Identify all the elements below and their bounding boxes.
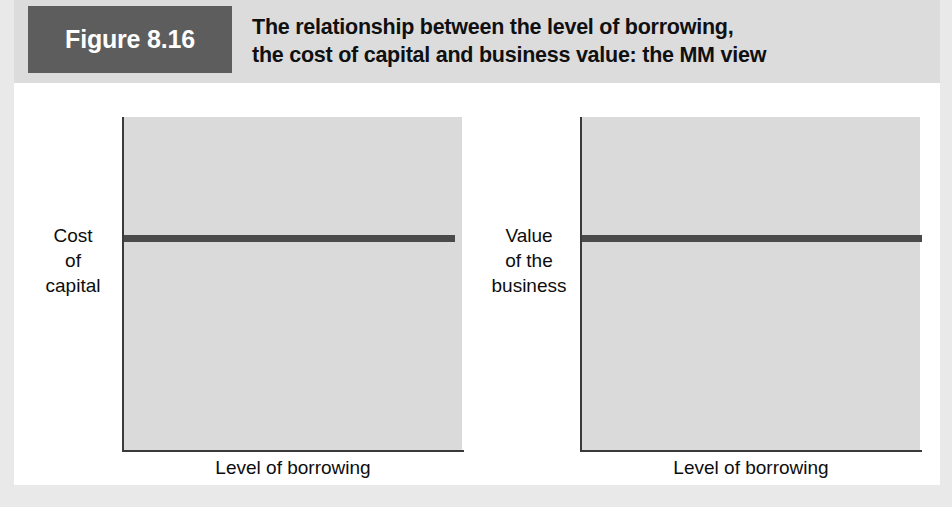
figure-title-line-2: the cost of capital and business value: …	[252, 41, 942, 69]
chart-cost-of-capital: Cost of capital Level of borrowing	[30, 83, 478, 485]
y-axis-label-line-1: Cost	[30, 223, 116, 248]
y-axis-line-cost-of-capital	[122, 117, 124, 451]
x-axis-label-value-of-business: Level of borrowing	[580, 457, 922, 479]
page-margin-right	[940, 0, 952, 507]
x-axis-line-value-of-business	[580, 450, 922, 452]
figure-body: Cost of capital Level of borrowing Value…	[14, 83, 940, 485]
y-axis-label-cost-of-capital: Cost of capital	[30, 223, 116, 298]
y-axis-label-value-of-business: Value of the business	[484, 223, 574, 298]
y-axis-line-value-of-business	[580, 117, 582, 451]
figure-page: Figure 8.16 The relationship between the…	[0, 0, 952, 507]
page-margin-bottom	[0, 485, 952, 507]
y-axis-label-line-2: of	[30, 248, 116, 273]
x-axis-label-cost-of-capital: Level of borrowing	[122, 457, 464, 479]
y-axis-label-line-3: business	[484, 273, 574, 298]
y-axis-label-line-1: Value	[484, 223, 574, 248]
plot-area-cost-of-capital	[124, 117, 462, 450]
chart-value-of-business: Value of the business Level of borrowing	[490, 83, 930, 485]
y-axis-label-line-2: of the	[484, 248, 574, 273]
plot-area-value-of-business	[582, 117, 920, 450]
series-line-value-of-business	[582, 235, 922, 242]
figure-number-badge: Figure 8.16	[28, 6, 232, 73]
page-margin-left	[0, 0, 14, 507]
x-axis-line-cost-of-capital	[122, 450, 464, 452]
figure-header-banner: Figure 8.16 The relationship between the…	[14, 0, 940, 83]
y-axis-label-line-3: capital	[30, 273, 116, 298]
figure-title-line-1: The relationship between the level of bo…	[252, 13, 942, 41]
figure-number-label: Figure 8.16	[65, 25, 195, 54]
series-line-cost-of-capital	[124, 235, 455, 242]
figure-title: The relationship between the level of bo…	[252, 6, 942, 76]
